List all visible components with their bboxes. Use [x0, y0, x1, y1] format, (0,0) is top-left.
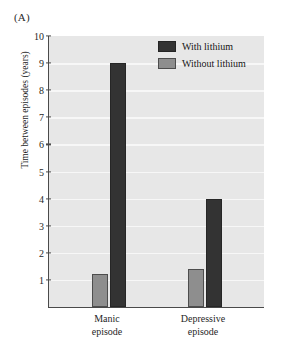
x-tick-label-line1: Depressive — [148, 313, 258, 326]
y-tick-label: 8 — [22, 85, 44, 96]
x-tick-label: Depressiveepisode — [148, 313, 258, 338]
legend-item: With lithium — [158, 39, 246, 54]
y-tick-mark — [46, 117, 51, 118]
legend-item: Without lithium — [158, 56, 246, 71]
y-tick-mark — [46, 35, 51, 36]
legend-label: With lithium — [182, 41, 233, 52]
x-tick-label-line2: episode — [148, 326, 258, 339]
y-tick-mark — [46, 144, 51, 145]
y-tick-label: 1 — [22, 274, 44, 285]
y-tick-label: 9 — [22, 58, 44, 69]
legend-swatch-icon — [158, 41, 176, 52]
x-tick-label-line1: Manic — [52, 313, 162, 326]
y-tick-label: 7 — [22, 112, 44, 123]
y-tick-label: 3 — [22, 220, 44, 231]
y-tick-label: 6 — [22, 139, 44, 150]
y-tick-label: 10 — [22, 31, 44, 42]
y-tick-mark — [46, 225, 51, 226]
x-tick-label: Manicepisode — [52, 313, 162, 338]
y-tick-mark — [46, 171, 51, 172]
chart-legend: With lithiumWithout lithium — [158, 39, 246, 73]
x-tick-label-line2: episode — [52, 326, 162, 339]
legend-label: Without lithium — [182, 58, 246, 69]
legend-swatch-icon — [158, 58, 176, 69]
y-tick-mark — [46, 252, 51, 253]
y-tick-mark — [46, 198, 51, 199]
y-tick-mark — [46, 90, 51, 91]
y-tick-label: 5 — [22, 166, 44, 177]
y-tick-mark — [46, 279, 51, 280]
y-tick-mark — [46, 63, 51, 64]
y-tick-label: 2 — [22, 247, 44, 258]
y-tick-label: 4 — [22, 193, 44, 204]
